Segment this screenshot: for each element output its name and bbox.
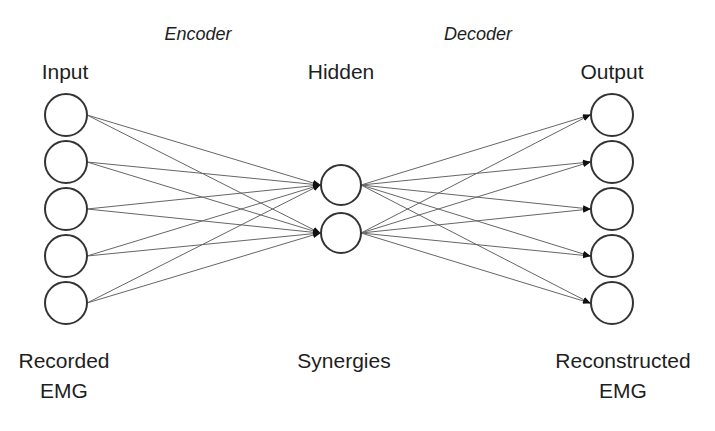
connection-edge xyxy=(361,233,590,256)
input-layer-title: Input xyxy=(42,58,89,86)
input-node-3 xyxy=(45,188,87,230)
connection-edge xyxy=(361,162,590,233)
hidden-layer-title: Hidden xyxy=(308,58,375,86)
encoder-label: Encoder xyxy=(164,20,231,48)
input-caption-line1: Recorded xyxy=(18,347,109,375)
hidden-caption: Synergies xyxy=(297,347,390,375)
input-node-5 xyxy=(45,282,87,324)
input-node-2 xyxy=(45,141,87,183)
output-layer-title: Output xyxy=(580,58,643,86)
output-caption-line2: EMG xyxy=(599,377,647,405)
output-node-3 xyxy=(591,188,633,230)
connection-edge xyxy=(87,185,320,256)
connection-edge xyxy=(87,185,320,209)
output-node-2 xyxy=(591,141,633,183)
connections xyxy=(87,115,590,303)
hidden-node-2 xyxy=(321,213,361,253)
output-node-5 xyxy=(591,282,633,324)
output-node-1 xyxy=(591,94,633,136)
connection-edge xyxy=(361,209,590,233)
output-node-4 xyxy=(591,235,633,277)
input-node-1 xyxy=(45,94,87,136)
connection-edge xyxy=(87,162,320,185)
hidden-node-1 xyxy=(321,165,361,205)
input-node-4 xyxy=(45,235,87,277)
input-caption-line2: EMG xyxy=(40,377,88,405)
decoder-label: Decoder xyxy=(444,20,512,48)
output-caption-line1: Reconstructed xyxy=(555,347,690,375)
